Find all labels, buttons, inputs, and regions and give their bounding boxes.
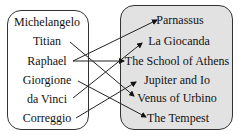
painting-school-of-athens: The School of Athens — [125, 54, 229, 68]
painting-jupiter-and-io: Jupiter and Io — [144, 73, 210, 87]
painter-titian: Titian — [33, 34, 61, 48]
painter-raphael: Raphael — [27, 54, 66, 68]
painter-da-vinci: da Vinci — [27, 92, 67, 106]
painting-parnassus: Parnassus — [156, 13, 203, 27]
painting-la-giocanda: La Giocanda — [148, 34, 210, 48]
painter-correggio: Correggio — [23, 111, 72, 125]
painter-giorgione: Giorgione — [23, 73, 71, 87]
painter-michelangelo: Michelangelo — [14, 15, 80, 29]
painting-the-tempest: The Tempest — [147, 111, 209, 125]
painting-venus-of-urbino: Venus of Urbino — [137, 91, 216, 105]
